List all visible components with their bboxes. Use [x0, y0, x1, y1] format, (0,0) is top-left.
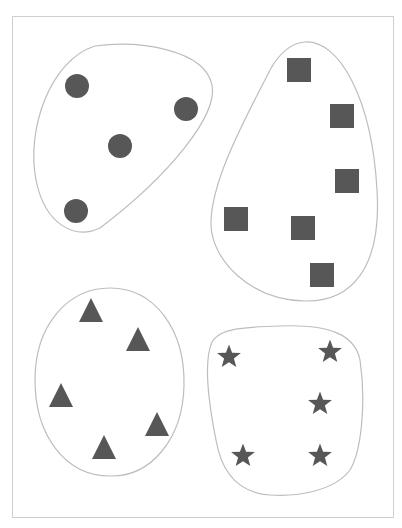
triangle-shape — [92, 435, 116, 459]
star-shape — [308, 444, 332, 467]
square-shape — [224, 207, 248, 231]
square-shape — [291, 216, 315, 240]
triangle-shape — [145, 412, 169, 436]
star-shape — [217, 345, 241, 368]
circle-shape — [65, 74, 89, 98]
star-shape — [231, 444, 255, 467]
star-shape — [318, 340, 342, 363]
circle-shape — [174, 97, 198, 121]
diagram-canvas — [0, 0, 402, 528]
square-shape — [330, 104, 354, 128]
square-shape — [310, 263, 334, 287]
triangle-shape — [126, 327, 150, 351]
circle-shape — [108, 134, 132, 158]
circle-shape — [64, 199, 88, 223]
triangle-shape — [49, 383, 73, 407]
square-shape — [287, 58, 311, 82]
triangle-shape — [79, 298, 103, 322]
square-shape — [335, 169, 359, 193]
star-shape — [308, 392, 332, 415]
